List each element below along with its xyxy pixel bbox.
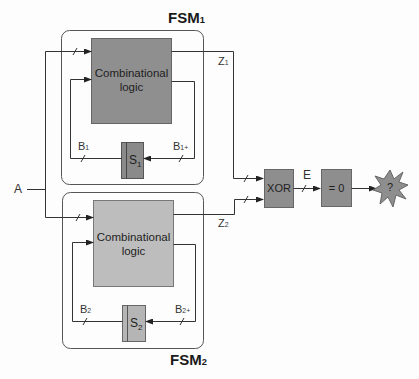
fsm1-state-label: B1 (78, 140, 89, 152)
fsm1-register-label: S1 (129, 153, 141, 169)
xor-label: XOR (264, 181, 294, 195)
e-wire (294, 185, 321, 192)
zero-check-label: = 0 (321, 181, 352, 195)
bus-slash-marks (73, 48, 80, 221)
input-a-label: A (14, 182, 22, 196)
fsm1-logic-label: Combinational logic (91, 66, 172, 94)
z1-output-wire (172, 52, 264, 183)
fsm2-register-label: S2 (130, 316, 142, 332)
z2-label: Z2 (218, 217, 229, 229)
fsm2-title: FSM2 (170, 351, 207, 368)
e-label: E (303, 168, 311, 182)
fsm1-title: FSM1 (168, 9, 205, 26)
fsm2-next-state-label: B2+ (175, 303, 190, 315)
fsm2-state-label: B2 (80, 303, 91, 315)
fsm1-next-state-label: B1+ (173, 140, 188, 152)
z1-label: Z1 (218, 55, 229, 67)
fsm-equivalence-diagram: FSM1 FSM2 Combinational logic Combinatio… (0, 0, 419, 379)
result-question-label: ? (380, 180, 400, 194)
diagram-canvas (0, 0, 419, 379)
fsm2-logic-label: Combinational logic (93, 230, 174, 258)
z2-output-wire (174, 196, 264, 215)
